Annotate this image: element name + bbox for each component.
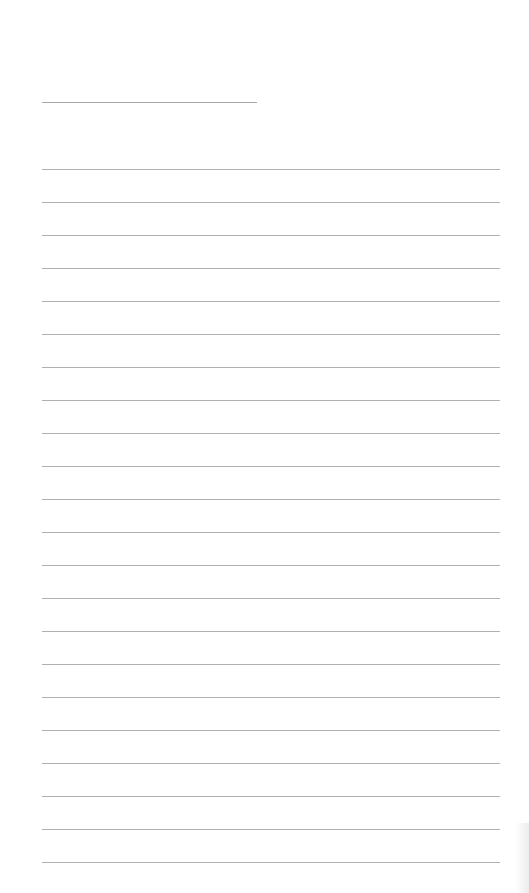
ruled-line (42, 301, 500, 302)
ruled-line (42, 730, 500, 731)
ruled-line (42, 202, 500, 203)
ruled-line (42, 565, 500, 566)
ruled-line (42, 466, 500, 467)
ruled-line (42, 499, 500, 500)
ruled-line (42, 697, 500, 698)
ruled-line (42, 796, 500, 797)
ruled-line (42, 367, 500, 368)
ruled-line (42, 631, 500, 632)
page-edge-shadow (515, 823, 529, 893)
ruled-line (42, 169, 500, 170)
ruled-line (42, 829, 500, 830)
ruled-line (42, 334, 500, 335)
ruled-line (42, 235, 500, 236)
ruled-line (42, 532, 500, 533)
title-writing-line (42, 102, 257, 103)
ruled-line (42, 664, 500, 665)
ruled-line (42, 433, 500, 434)
ruled-line (42, 763, 500, 764)
ruled-line (42, 598, 500, 599)
ruled-line (42, 862, 500, 863)
ruled-line (42, 400, 500, 401)
ruled-line (42, 268, 500, 269)
